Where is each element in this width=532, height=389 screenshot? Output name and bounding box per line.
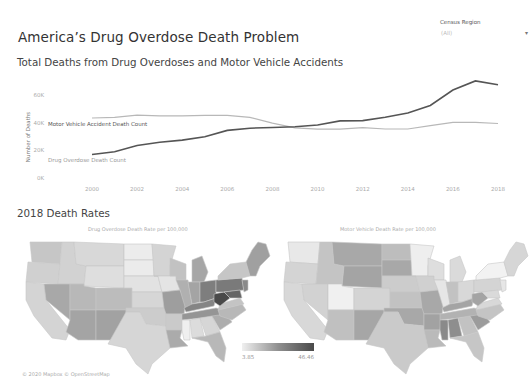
state-mt[interactable] (332, 242, 382, 266)
state-ut[interactable] (328, 284, 354, 310)
state-az[interactable] (66, 310, 96, 340)
state-mt[interactable] (74, 242, 124, 266)
drug-overdose-line[interactable] (92, 81, 498, 155)
drug-overdose-map[interactable] (20, 236, 280, 376)
legend-min: 3.85 (242, 354, 254, 360)
state-sd[interactable] (382, 260, 412, 276)
x-tick-label: 2006 (220, 186, 234, 192)
drug-overdose-line-label: Drug Overdose Death Count (48, 157, 127, 164)
state-wy[interactable] (342, 266, 382, 288)
state-wa[interactable] (30, 242, 62, 264)
state-co[interactable] (96, 288, 132, 310)
map-attribution[interactable]: © 2020 Mapbox © OpenStreetMap (22, 371, 110, 377)
right-map-title: Motor Vehicle Death Rate per 100,000 (340, 226, 436, 232)
state-az[interactable] (324, 310, 354, 340)
y-tick-label: 20K (33, 147, 44, 153)
state-or[interactable] (284, 262, 318, 284)
state-nd[interactable] (382, 244, 412, 260)
x-tick-label: 2012 (356, 186, 370, 192)
x-tick-label: 2008 (265, 186, 279, 192)
legend-max: 46.46 (298, 354, 314, 360)
left-map-title: Drug Overdose Death Rate per 100,000 (88, 226, 188, 232)
legend-gradient (242, 343, 314, 351)
state-new-england[interactable] (246, 242, 270, 276)
state-wy[interactable] (84, 266, 124, 288)
state-ny[interactable] (476, 262, 508, 280)
y-tick-label: 40K (33, 120, 44, 126)
state-ks[interactable] (132, 292, 164, 308)
state-co[interactable] (354, 288, 390, 310)
motor-vehicle-line-label: Motor Vehicle Accident Death Count (48, 121, 148, 127)
x-tick-label: 2018 (491, 186, 505, 192)
y-axis-label: Number of Deaths (25, 112, 31, 163)
color-legend: 3.85 46.46 (242, 343, 314, 351)
state-ks[interactable] (390, 292, 422, 308)
state-ms[interactable] (440, 320, 448, 340)
x-tick-label: 2004 (175, 186, 189, 192)
x-tick-label: 2000 (85, 186, 99, 192)
x-tick-label: 2002 (130, 186, 144, 192)
state-ar[interactable] (424, 314, 442, 330)
x-tick-label: 2016 (446, 186, 460, 192)
section-title-death-rates: 2018 Death Rates (17, 207, 110, 219)
motor-vehicle-map[interactable] (278, 236, 532, 376)
state-nd[interactable] (124, 244, 154, 260)
state-new-england[interactable] (504, 242, 528, 276)
x-tick-label: 2014 (401, 186, 415, 192)
line-chart: Number of Deaths 0K20K40K60K 20002002200… (0, 0, 532, 200)
state-sd[interactable] (124, 260, 154, 276)
y-tick-label: 60K (33, 92, 44, 98)
x-tick-label: 2010 (311, 186, 325, 192)
state-ms[interactable] (182, 320, 190, 340)
state-or[interactable] (26, 262, 60, 284)
state-ny[interactable] (218, 262, 250, 280)
state-wa[interactable] (288, 242, 320, 264)
state-mi[interactable] (192, 256, 208, 282)
y-tick-label: 0K (37, 175, 44, 181)
state-ut[interactable] (70, 284, 96, 310)
state-ar[interactable] (166, 314, 184, 330)
state-mi[interactable] (450, 256, 466, 282)
